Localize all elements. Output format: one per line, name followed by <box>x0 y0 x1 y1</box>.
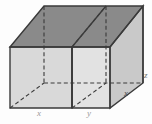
box-diagram-svg <box>0 0 152 124</box>
dimension-label-bottom-right: y <box>87 109 91 118</box>
box-front-face-left <box>10 47 72 108</box>
box-front-face-right <box>72 47 110 108</box>
dimension-label-bottom-left: x <box>37 109 41 118</box>
dimension-label-right-edge: z <box>144 71 148 80</box>
geometry-figure: x y x z <box>0 0 152 124</box>
dimension-label-right-lower: x <box>124 89 128 98</box>
